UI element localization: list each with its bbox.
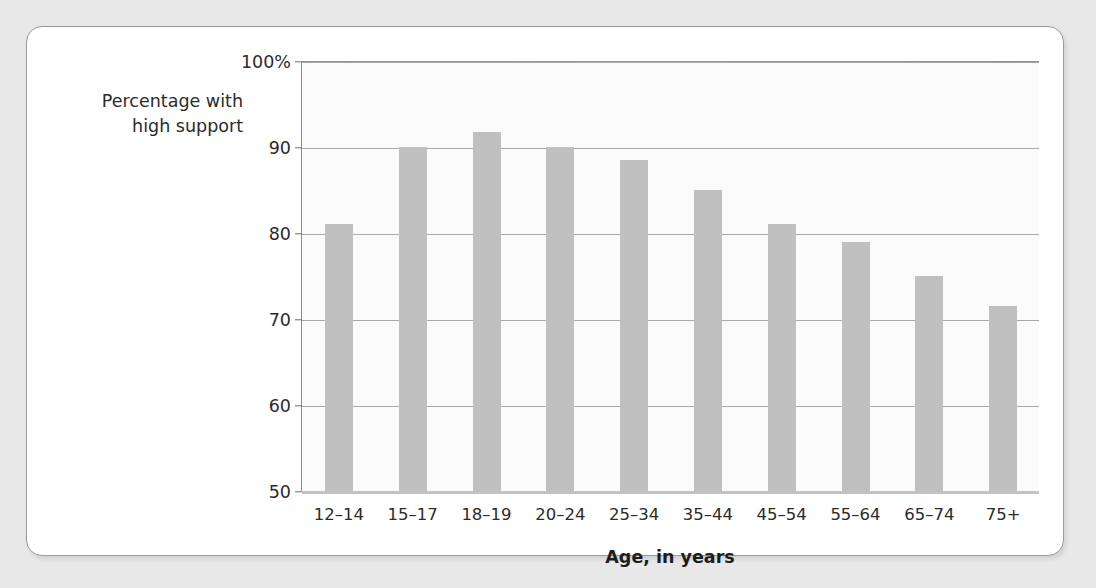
y-tick-label: 80: [269, 224, 291, 244]
y-tick-label: 50: [269, 482, 291, 502]
bar: [915, 276, 943, 491]
x-tick-label: 12–14: [314, 505, 364, 524]
bar: [473, 132, 501, 491]
bar: [620, 160, 648, 491]
bar: [399, 147, 427, 491]
bar: [989, 306, 1017, 491]
x-tick-label: 75+: [986, 505, 1021, 524]
x-tick-label: 55–64: [830, 505, 880, 524]
x-tick-label: 65–74: [904, 505, 954, 524]
figure-card: Percentage with high support 100%9080706…: [26, 26, 1064, 556]
x-tick-label: 15–17: [388, 505, 438, 524]
x-axis-baseline: [302, 491, 1039, 494]
x-tick-label: 25–34: [609, 505, 659, 524]
y-tick-mark: [295, 319, 302, 320]
bar: [546, 147, 574, 491]
x-tick-label: 45–54: [757, 505, 807, 524]
y-tick-mark: [295, 491, 302, 492]
bar: [842, 242, 870, 491]
y-tick-mark: [295, 147, 302, 148]
x-tick-label: 18–19: [461, 505, 511, 524]
plot-area: 100%9080706050 12–1415–1718–1920–2425–34…: [301, 61, 1039, 491]
x-tick-label: 35–44: [683, 505, 733, 524]
bar: [768, 224, 796, 491]
y-tick-label: 60: [269, 396, 291, 416]
gridline: [302, 62, 1039, 63]
y-tick-mark: [295, 405, 302, 406]
y-tick-mark: [295, 61, 302, 62]
x-axis-title: Age, in years: [301, 547, 1039, 567]
y-tick-label: 100%: [241, 52, 291, 72]
y-tick-mark: [295, 233, 302, 234]
y-axis-title: Percentage with high support: [63, 89, 243, 140]
bar: [694, 190, 722, 491]
x-tick-label: 20–24: [535, 505, 585, 524]
bar: [325, 224, 353, 491]
y-tick-label: 70: [269, 310, 291, 330]
y-tick-label: 90: [269, 138, 291, 158]
